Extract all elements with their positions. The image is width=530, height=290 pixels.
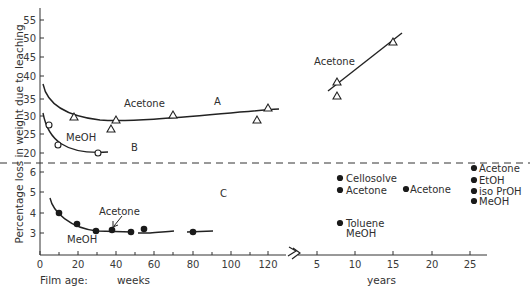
- svg-text:20: 20: [72, 259, 85, 270]
- svg-text:5: 5: [30, 187, 36, 198]
- label-cellosolve: Cellosolve: [346, 173, 397, 184]
- label-panel-b: B: [131, 142, 138, 153]
- chart-canvas: 55 50 45 40 35 30 25 20 6 5 4 3 0: [0, 0, 530, 290]
- y-axis-title: Percentage loss in weight due to leachin…: [13, 24, 25, 243]
- svg-text:25: 25: [464, 259, 477, 270]
- label-meoh-25y: MeOH: [479, 196, 509, 207]
- x-axis-title: Film age:: [40, 274, 88, 286]
- y-tick-labels-upper: 55 50 45 40 35 30 25 20: [23, 15, 36, 159]
- svg-text:25: 25: [23, 129, 36, 140]
- svg-text:40: 40: [110, 259, 123, 270]
- y-tick-labels-lower: 6 5 4 3: [30, 167, 36, 239]
- svg-text:40: 40: [23, 71, 36, 82]
- y-ticks-lower: [40, 172, 44, 233]
- label-etoh-25y: EtOH: [479, 175, 505, 186]
- svg-text:20: 20: [426, 259, 439, 270]
- label-acetone-25y: Acetone: [479, 163, 520, 174]
- triangle-markers-acetone-years: [333, 38, 397, 99]
- x-ticks-weeks: [40, 251, 268, 255]
- triangle-markers-acetone-weeks: [70, 104, 272, 132]
- svg-text:80: 80: [187, 259, 200, 270]
- svg-text:20: 20: [23, 148, 36, 159]
- svg-text:45: 45: [23, 52, 36, 63]
- x-unit-years: years: [367, 274, 396, 286]
- svg-text:60: 60: [148, 259, 161, 270]
- label-meoh-b: MeOH: [66, 132, 96, 143]
- svg-text:5: 5: [314, 259, 320, 270]
- svg-text:35: 35: [23, 94, 36, 105]
- svg-text:55: 55: [23, 15, 36, 26]
- label-acetone-7y: Acetone: [346, 185, 387, 196]
- label-acetone-16y: Acetone: [410, 184, 451, 195]
- svg-text:50: 50: [23, 33, 36, 44]
- svg-text:3: 3: [30, 228, 36, 239]
- svg-text:10: 10: [349, 259, 362, 270]
- arrow-acetone-pointer: [113, 216, 122, 227]
- svg-text:0: 0: [37, 259, 43, 270]
- svg-text:15: 15: [387, 259, 400, 270]
- x-tick-labels-years: 5 10 15 20 25: [314, 259, 477, 270]
- svg-text:30: 30: [23, 111, 36, 122]
- svg-text:6: 6: [30, 167, 36, 178]
- label-panel-c: C: [220, 188, 227, 199]
- axis-break-icon: [288, 247, 300, 259]
- label-acetone-c: Acetone: [99, 206, 140, 217]
- label-acetone-a: Acetone: [124, 98, 165, 109]
- label-meoh-7y: MeOH: [346, 228, 376, 239]
- svg-text:4: 4: [30, 208, 36, 219]
- x-ticks-years: [317, 251, 470, 255]
- x-tick-labels-weeks: 0 20 40 60 80 100 120: [37, 259, 278, 270]
- svg-text:120: 120: [258, 259, 277, 270]
- label-acetone-years: Acetone: [314, 56, 355, 67]
- label-meoh-c: MeOH: [67, 234, 97, 245]
- label-panel-a: A: [214, 96, 221, 107]
- svg-text:100: 100: [221, 259, 240, 270]
- x-unit-weeks: weeks: [117, 274, 150, 286]
